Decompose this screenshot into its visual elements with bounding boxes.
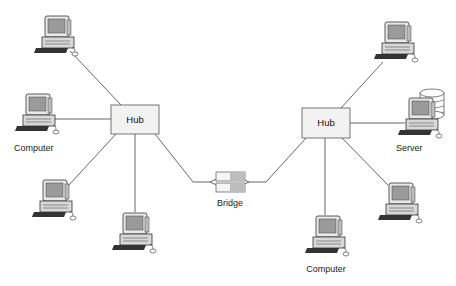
computer-icon — [32, 180, 76, 220]
computer-icon — [15, 94, 59, 134]
bridge-label: Bridge — [217, 198, 243, 208]
hub-left-label: Hub — [126, 114, 143, 125]
diagram-canvas: Hub Hub Bridge Computer Computer Server — [0, 0, 456, 286]
computer-icon — [378, 183, 422, 223]
server-label: Server — [396, 143, 423, 153]
computer-label-left: Computer — [14, 143, 54, 153]
network-diagram: Hub Hub Bridge Computer Computer Server — [0, 0, 456, 286]
computer-icon — [305, 216, 349, 256]
computer-icon — [34, 16, 78, 56]
computer-icon — [374, 22, 418, 62]
hub-left: Hub — [111, 105, 159, 134]
hub-right: Hub — [302, 108, 350, 138]
server-icon — [398, 89, 444, 138]
bridge: Bridge — [216, 172, 245, 208]
computer-icon — [112, 213, 156, 253]
computer-label-bottom: Computer — [306, 264, 346, 274]
hub-right-label: Hub — [317, 117, 334, 128]
